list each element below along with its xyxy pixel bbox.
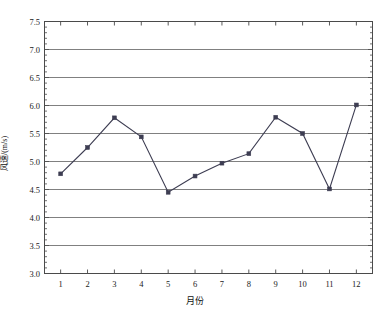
data-point-marker (86, 146, 90, 150)
x-tick-label: 1 (59, 280, 63, 289)
chart-canvas (0, 0, 390, 316)
y-tick-label: 6.0 (8, 101, 40, 110)
x-tick-label: 7 (220, 280, 224, 289)
y-tick-label: 5.0 (8, 157, 40, 166)
data-point-marker (328, 187, 332, 191)
y-tick-label: 7.5 (8, 17, 40, 26)
x-tick-label: 12 (352, 280, 361, 289)
x-tick-label: 11 (325, 280, 333, 289)
x-tick-label: 10 (298, 280, 307, 289)
wind-speed-line (61, 105, 357, 192)
frame-border (45, 22, 373, 274)
x-tick-label: 3 (112, 280, 116, 289)
x-axis-title: 月份 (0, 294, 390, 307)
x-tick-label: 9 (274, 280, 278, 289)
y-tick-label: 4.5 (8, 185, 40, 194)
data-point-marker (247, 152, 251, 156)
data-point-marker (301, 132, 305, 136)
gridlines-group (45, 50, 373, 246)
data-point-marker (59, 172, 63, 176)
y-tick-label: 5.5 (8, 129, 40, 138)
y-axis-title: 风速/(m/s) (0, 136, 9, 171)
y-tick-label: 7.0 (8, 45, 40, 54)
x-ticks-group (61, 22, 357, 274)
plot-frame (45, 22, 373, 274)
y-tick-label: 3.5 (8, 241, 40, 250)
data-point-marker (193, 174, 197, 178)
data-point-marker (113, 116, 117, 120)
data-point-marker (139, 135, 143, 139)
data-point-marker (354, 103, 358, 107)
x-tick-label: 6 (193, 280, 197, 289)
x-tick-label: 2 (85, 280, 89, 289)
data-point-marker (166, 190, 170, 194)
x-tick-label: 8 (247, 280, 251, 289)
y-tick-label: 3.0 (8, 269, 40, 278)
wind-speed-line-chart: 3.03.54.04.55.05.56.06.57.07.5 123456789… (0, 0, 390, 316)
y-minor-ticks-group (45, 22, 373, 274)
data-point-marker (274, 115, 278, 119)
x-tick-label: 4 (139, 280, 143, 289)
data-point-marker (220, 161, 224, 165)
x-tick-label: 5 (166, 280, 170, 289)
y-tick-label: 4.0 (8, 213, 40, 222)
y-tick-label: 6.5 (8, 73, 40, 82)
data-point-markers (59, 103, 359, 194)
